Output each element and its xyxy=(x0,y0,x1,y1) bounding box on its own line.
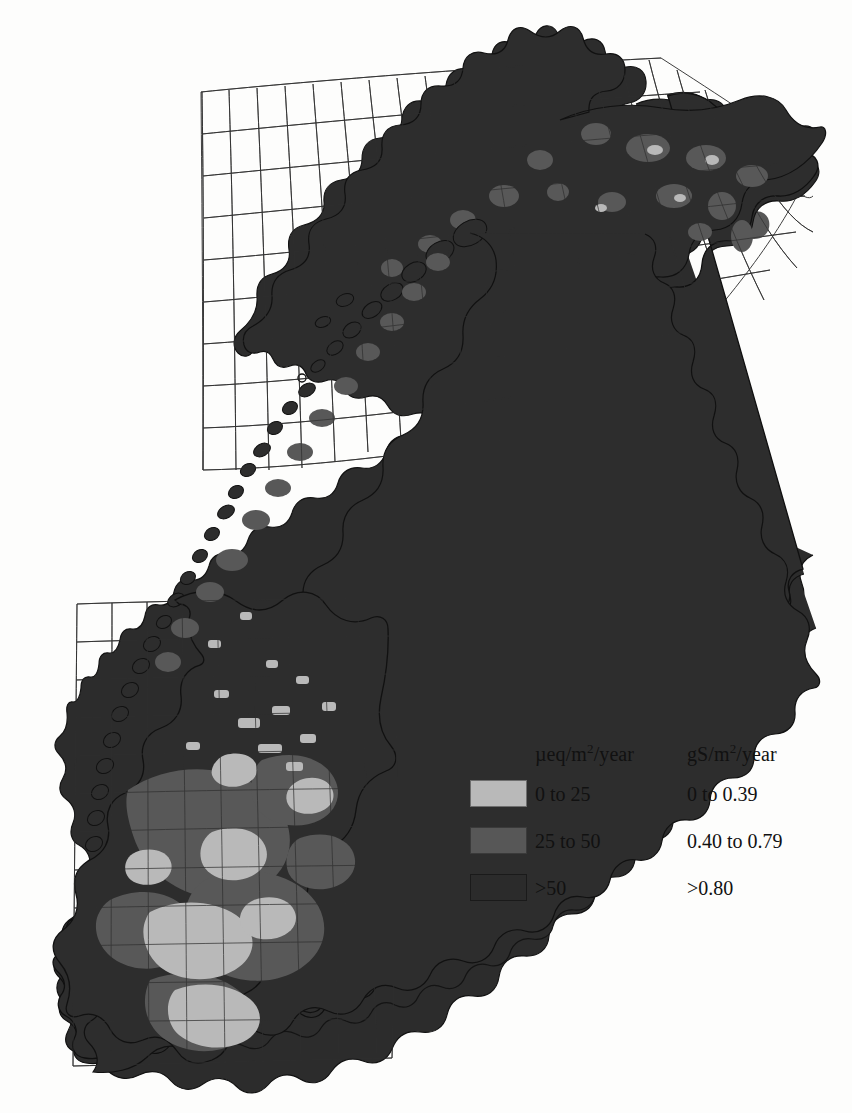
legend-header-ueq-sup: 2 xyxy=(587,741,594,756)
legend-row-high: >50 >0.80 xyxy=(470,874,830,901)
legend-header-ueq: µeq/m2/year xyxy=(535,744,687,764)
legend-label-low-ueq: 0 to 25 xyxy=(535,784,687,804)
legend-label-mid-ueq: 25 to 50 xyxy=(535,831,687,851)
legend-header-ueq-base: µeq/m xyxy=(535,743,587,765)
legend-label-high-gs: >0.80 xyxy=(687,878,733,898)
legend-swatch-low xyxy=(470,780,527,807)
legend-header-gs: gS/m2/year xyxy=(687,744,777,764)
legend-row-low: 0 to 25 0 to 0.39 xyxy=(470,780,830,807)
legend-label-high-ueq: >50 xyxy=(535,878,687,898)
norway-deposition-map xyxy=(0,0,852,1113)
legend-header-row: µeq/m2/year gS/m2/year xyxy=(535,744,830,764)
legend-header-ueq-tail: /year xyxy=(594,743,634,765)
legend-label-mid-gs: 0.40 to 0.79 xyxy=(687,831,783,851)
legend-swatch-high xyxy=(470,874,527,901)
legend-label-low-gs: 0 to 0.39 xyxy=(687,784,758,804)
legend-header-gs-base: gS/m xyxy=(687,743,730,765)
map-legend: µeq/m2/year gS/m2/year 0 to 25 0 to 0.39… xyxy=(470,744,830,921)
legend-row-mid: 25 to 50 0.40 to 0.79 xyxy=(470,827,830,854)
map-figure: µeq/m2/year gS/m2/year 0 to 25 0 to 0.39… xyxy=(0,0,852,1113)
legend-swatch-mid xyxy=(470,827,527,854)
legend-header-gs-tail: /year xyxy=(736,743,776,765)
